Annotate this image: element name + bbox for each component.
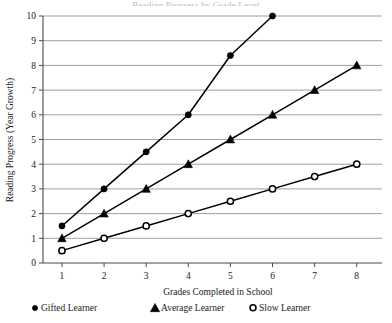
line-chart-canvas: 012345678910 12345678 Reading Progress (… (0, 0, 392, 323)
data-point-0-1 (101, 186, 107, 192)
y-tick-label-5: 5 (31, 135, 36, 145)
x-tick-label-2: 2 (102, 271, 107, 281)
data-point-1-7 (353, 61, 361, 69)
y-tick-label-2: 2 (31, 209, 36, 219)
data-point-2-0 (59, 248, 65, 254)
data-point-1-2 (142, 185, 150, 193)
data-point-1-0 (58, 234, 66, 242)
data-point-0-5 (269, 13, 275, 19)
x-axis-label: Grades Completed in School (163, 287, 273, 297)
series-gifted-learner (59, 13, 276, 229)
chart-legend: Gifted LearnerAverage LearnerSlow Learne… (32, 303, 311, 313)
y-axis-ticks: 012345678910 (27, 11, 44, 268)
data-point-2-6 (312, 173, 318, 179)
y-tick-label-0: 0 (31, 258, 36, 268)
x-tick-label-1: 1 (60, 271, 65, 281)
legend-label-2: Slow Learner (259, 303, 311, 313)
y-tick-label-8: 8 (31, 61, 36, 71)
data-point-0-0 (59, 223, 65, 229)
x-axis-ticks: 12345678 (60, 263, 360, 281)
figure-title-clipped: Reading Progress by Grade Level (0, 0, 392, 6)
y-axis-label: Reading Progress (Year Growth) (5, 78, 16, 202)
legend-label-0: Gifted Learner (41, 303, 98, 313)
data-point-2-3 (185, 211, 191, 217)
y-tick-label-6: 6 (31, 110, 36, 120)
data-point-0-2 (143, 149, 149, 155)
legend-marker-filled-circle (32, 305, 37, 310)
chart-figure: Reading Progress by Grade Level 01234567… (0, 0, 392, 323)
data-point-2-2 (143, 223, 149, 229)
data-point-2-1 (101, 235, 107, 241)
y-tick-label-1: 1 (31, 234, 36, 244)
series-slow-learner (59, 161, 360, 254)
x-tick-label-3: 3 (144, 271, 149, 281)
legend-marker-filled-triangle (150, 303, 159, 311)
x-tick-label-6: 6 (270, 271, 275, 281)
legend-marker-open-circle (250, 305, 256, 311)
x-tick-label-5: 5 (228, 271, 233, 281)
data-point-2-5 (269, 186, 275, 192)
data-point-0-4 (227, 52, 233, 58)
data-point-1-1 (100, 209, 108, 217)
data-point-0-3 (185, 112, 191, 118)
data-point-1-3 (184, 160, 192, 168)
gridlines (43, 16, 382, 238)
data-point-2-7 (354, 161, 360, 167)
series-average-learner (58, 61, 361, 242)
data-point-2-4 (227, 198, 233, 204)
x-tick-label-7: 7 (312, 271, 317, 281)
x-tick-label-4: 4 (186, 271, 191, 281)
y-tick-label-9: 9 (31, 36, 36, 46)
data-series (58, 13, 361, 254)
data-point-1-4 (226, 135, 234, 143)
data-point-1-5 (268, 110, 276, 118)
legend-label-1: Average Learner (161, 303, 225, 313)
y-tick-label-4: 4 (31, 160, 36, 170)
series-line-0 (62, 16, 273, 226)
y-tick-label-10: 10 (27, 11, 37, 21)
data-point-1-6 (310, 86, 318, 94)
y-tick-label-7: 7 (31, 86, 36, 96)
x-tick-label-8: 8 (354, 271, 359, 281)
y-tick-label-3: 3 (31, 184, 36, 194)
